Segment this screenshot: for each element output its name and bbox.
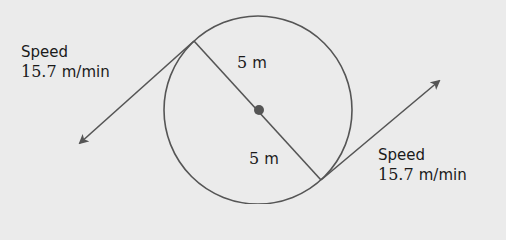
center-point [254,105,264,115]
lower-radius-label: 5 m [249,151,279,167]
upper-radius-label: 5 m [237,55,267,71]
left-speed-value: 15.7 m/min [21,64,110,80]
right-speed-number: 15.7 [378,165,414,184]
right-speed-unit: m/min [419,166,467,184]
lower-radius-value: 5 [249,149,259,168]
right-speed-label: Speed [378,148,425,163]
left-speed-number: 15.7 [21,62,57,81]
upper-radius-value: 5 [237,53,247,72]
right-speed-value: 15.7 m/min [378,167,467,183]
upper-radius-unit: m [252,54,267,72]
left-tangent-arrow [80,41,194,143]
lower-radius-unit: m [264,150,279,168]
left-speed-label: Speed [21,45,68,60]
left-speed-unit: m/min [62,63,110,81]
